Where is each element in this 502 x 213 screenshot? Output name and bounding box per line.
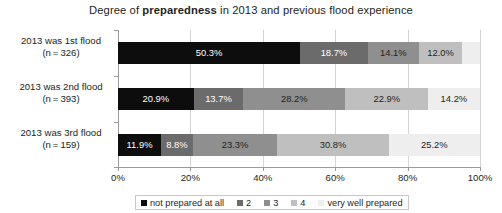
category-label: 2013 was 2nd flood(n = 393) xyxy=(6,81,116,106)
x-axis-tick-label: 0% xyxy=(95,172,141,183)
category-label: 2013 was 3rd flood(n = 159) xyxy=(6,127,116,152)
x-axis-tick xyxy=(118,167,119,171)
chart-title: Degree of preparedness in 2013 and previ… xyxy=(0,4,502,16)
category-label-line: (n = 159) xyxy=(6,139,116,151)
chart-legend: not prepared at all234very well prepared xyxy=(135,195,409,210)
x-axis-line xyxy=(118,167,481,168)
y-axis-tick xyxy=(114,167,118,168)
legend-item-label: 4 xyxy=(300,198,305,208)
bar-segment xyxy=(462,42,480,64)
legend-swatch-icon xyxy=(141,200,147,206)
legend-item[interactable]: 4 xyxy=(291,198,305,208)
category-label-line: 2013 was 2nd flood xyxy=(19,81,102,92)
bar-segment: 28.2% xyxy=(243,88,345,110)
legend-swatch-icon xyxy=(318,200,324,206)
bar-row: 20.9%13.7%28.2%22.9%14.2% xyxy=(118,88,480,110)
bar-segment: 14.2% xyxy=(428,88,479,110)
x-axis-tick-label: 60% xyxy=(312,172,358,183)
y-axis-tick xyxy=(114,122,118,123)
bar-row: 50.3%18.7%14.1%12.0% xyxy=(118,42,480,64)
bar-segment: 8.8% xyxy=(161,134,193,156)
bar-segment: 18.7% xyxy=(300,42,368,64)
x-axis-tick xyxy=(335,167,336,171)
chart-title-part-2: in 2013 and previous flood experience xyxy=(217,4,413,16)
bar-segment: 14.1% xyxy=(368,42,419,64)
bar-segment: 13.7% xyxy=(194,88,244,110)
category-label-line: (n = 326) xyxy=(6,47,116,59)
x-axis-tick xyxy=(190,167,191,171)
x-axis-tick xyxy=(263,167,264,171)
bar-segment: 11.9% xyxy=(118,134,161,156)
x-axis-tick xyxy=(408,167,409,171)
x-axis-tick-label: 80% xyxy=(385,172,431,183)
legend-item-label: not prepared at all xyxy=(150,198,224,208)
bar-segment: 22.9% xyxy=(345,88,428,110)
y-axis-tick xyxy=(114,76,118,77)
bar-segment: 25.2% xyxy=(389,134,480,156)
gridline xyxy=(480,30,481,167)
category-label: 2013 was 1st flood(n = 326) xyxy=(6,35,116,60)
legend-item[interactable]: 3 xyxy=(264,198,278,208)
legend-item-label: 3 xyxy=(273,198,278,208)
x-axis-tick-label: 40% xyxy=(240,172,286,183)
y-axis-tick xyxy=(114,30,118,31)
legend-item[interactable]: very well prepared xyxy=(318,198,402,208)
x-axis-tick-label: 20% xyxy=(167,172,213,183)
legend-item-label: 2 xyxy=(246,198,251,208)
legend-swatch-icon xyxy=(237,200,243,206)
legend-swatch-icon xyxy=(264,200,270,206)
bar-segment: 30.8% xyxy=(277,134,388,156)
legend-item-label: very well prepared xyxy=(327,198,402,208)
bar-segment: 12.0% xyxy=(419,42,462,64)
category-label-line: (n = 393) xyxy=(6,93,116,105)
bar-segment: 23.3% xyxy=(193,134,277,156)
bar-row: 11.9%8.8%23.3%30.8%25.2% xyxy=(118,134,480,156)
bar-segment: 50.3% xyxy=(118,42,300,64)
category-label-line: 2013 was 3rd flood xyxy=(20,127,101,138)
x-axis-tick xyxy=(480,167,481,171)
legend-swatch-icon xyxy=(291,200,297,206)
x-axis-tick-label: 100% xyxy=(457,172,502,183)
bar-segment: 20.9% xyxy=(118,88,194,110)
category-label-line: 2013 was 1st flood xyxy=(21,35,101,46)
chart-title-part-1: Degree of xyxy=(89,4,142,16)
chart-container: Degree of preparedness in 2013 and previ… xyxy=(0,0,502,213)
legend-item[interactable]: not prepared at all xyxy=(141,198,224,208)
chart-title-emphasis: preparedness xyxy=(142,4,217,16)
legend-item[interactable]: 2 xyxy=(237,198,251,208)
